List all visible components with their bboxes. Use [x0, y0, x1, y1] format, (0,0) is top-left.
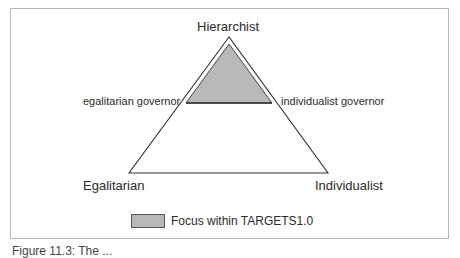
vertex-label-individualist: Individualist [315, 178, 383, 193]
legend: Focus within TARGETS1.0 [131, 214, 313, 228]
legend-swatch [131, 214, 165, 228]
figure-caption: Figure 11.3: The ... [12, 244, 112, 258]
side-label-individualist-governor: individualist governor [281, 95, 384, 107]
vertex-label-hierarchist: Hierarchist [197, 19, 259, 34]
legend-label: Focus within TARGETS1.0 [171, 214, 313, 228]
focus-region [186, 44, 272, 103]
vertex-label-egalitarian: Egalitarian [83, 178, 144, 193]
side-label-egalitarian-governor: egalitarian governor [83, 95, 180, 107]
